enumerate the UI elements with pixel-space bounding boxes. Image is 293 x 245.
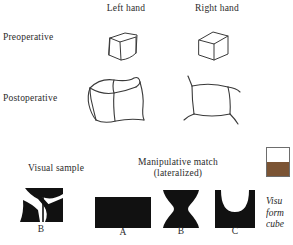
side-caption-line1: Visu: [266, 196, 293, 208]
drawing-preoperative-right-hand: [185, 22, 247, 70]
drawing-postoperative-left-hand: [84, 66, 168, 128]
shape-visual-sample: [18, 186, 70, 224]
swatch-bottom-half: [267, 162, 289, 176]
row-label-postoperative: Postoperative: [3, 93, 57, 103]
color-swatch: [266, 147, 290, 177]
row-label-preoperative: Preoperative: [3, 32, 53, 42]
column-header-left-hand: Left hand: [89, 3, 163, 13]
label-option-b: B: [160, 226, 202, 236]
swatch-top-half: [267, 148, 289, 162]
shape-option-b: [160, 190, 202, 228]
side-caption-line3: cube: [266, 219, 293, 231]
label-option-c: C: [215, 226, 255, 236]
shape-option-c: [215, 190, 255, 228]
heading-manipulative-line1: Manipulative match: [108, 157, 248, 168]
heading-manipulative-line2: (lateralized): [108, 168, 248, 179]
drawing-preoperative-left-hand: [95, 22, 157, 70]
side-caption: Visu form cube: [266, 196, 293, 231]
drawing-postoperative-right-hand: [178, 66, 258, 128]
column-header-right-hand: Right hand: [178, 3, 256, 13]
shape-option-a: [95, 197, 151, 228]
label-visual-sample: B: [20, 224, 62, 234]
heading-manipulative-match: Manipulative match (lateralized): [108, 157, 248, 178]
heading-visual-sample: Visual sample: [2, 163, 110, 173]
figure-canvas: Left hand Right hand Preoperative Postop…: [0, 0, 293, 245]
label-option-a: A: [95, 227, 151, 237]
side-caption-line2: form: [266, 208, 293, 220]
